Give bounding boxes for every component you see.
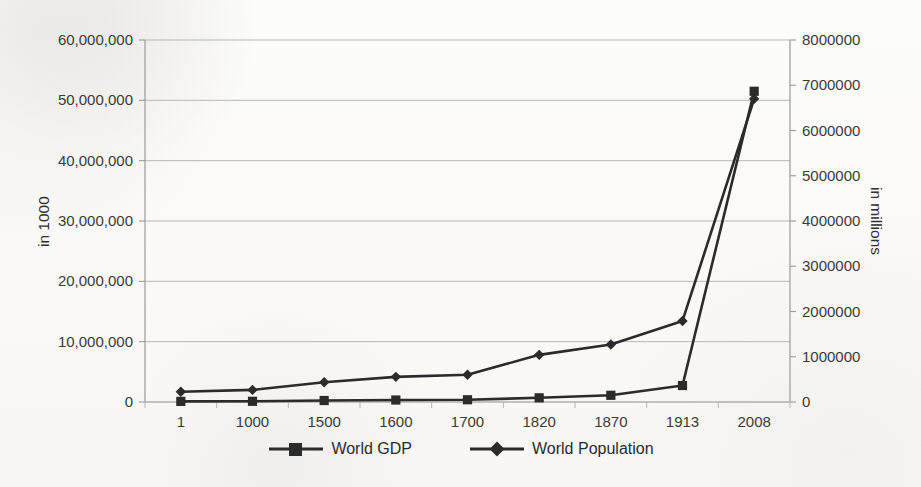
data-point-marker (534, 350, 544, 360)
left-axis-title: in 1000 (36, 196, 52, 247)
right-axis-tick-label: 7000000 (802, 77, 860, 92)
legend-marker-diamond-icon (468, 440, 526, 458)
x-axis-tick-label: 1870 (575, 414, 647, 429)
left-axis-tick-label: 40,000,000 (0, 153, 133, 168)
left-axis-ticks (139, 40, 145, 402)
legend-label-world-gdp: World GDP (331, 441, 412, 457)
right-axis-tick-label: 3000000 (802, 258, 860, 273)
data-point-marker (247, 385, 257, 395)
data-point-marker (176, 387, 186, 397)
right-axis-tick-label: 6000000 (802, 123, 860, 138)
data-point-marker (677, 316, 687, 326)
left-axis-tick-label: 10,000,000 (0, 334, 133, 349)
right-axis-title: in millions (869, 187, 885, 255)
x-axis-tick-label: 1500 (288, 414, 360, 429)
data-point-marker (319, 377, 329, 387)
right-axis-tick-label: 0 (802, 394, 810, 409)
x-axis-tick-label: 1600 (360, 414, 432, 429)
data-series-layer (176, 87, 760, 406)
series-line-world-gdp (181, 91, 754, 401)
legend-marker-square-icon (267, 440, 325, 458)
x-axis-tick-label: 1700 (432, 414, 504, 429)
right-axis-tick-label: 1000000 (802, 349, 860, 364)
chart-figure: 010,000,00020,000,00030,000,00040,000,00… (0, 0, 921, 487)
x-axis-tick-label: 2008 (718, 414, 790, 429)
left-axis-tick-label: 0 (0, 394, 133, 409)
data-point-marker (320, 396, 329, 405)
series-line-world-population (181, 99, 754, 392)
x-axis-tick-label: 1000 (217, 414, 289, 429)
x-axis-tick-label: 1 (145, 414, 217, 429)
legend-item-world-gdp[interactable]: World GDP (267, 440, 412, 458)
left-axis-tick-label: 20,000,000 (0, 273, 133, 288)
chart-legend: World GDP World Population (0, 440, 921, 458)
gridlines (145, 40, 790, 402)
right-axis-tick-label: 8000000 (802, 32, 860, 47)
data-point-marker (606, 339, 616, 349)
right-axis-tick-label: 5000000 (802, 168, 860, 183)
data-point-marker (391, 372, 401, 382)
data-point-marker (606, 391, 615, 400)
right-axis-ticks (790, 40, 796, 402)
data-point-marker (463, 395, 472, 404)
data-point-marker (462, 370, 472, 380)
legend-label-world-population: World Population (532, 441, 654, 457)
data-point-marker (248, 397, 257, 406)
data-point-marker (678, 381, 687, 390)
right-axis-tick-label: 4000000 (802, 213, 860, 228)
legend-item-world-population[interactable]: World Population (468, 440, 654, 458)
right-axis-tick-label: 2000000 (802, 304, 860, 319)
left-axis-tick-label: 60,000,000 (0, 32, 133, 47)
data-point-marker (176, 397, 185, 406)
data-point-marker (535, 393, 544, 402)
x-axis-tick-label: 1913 (647, 414, 719, 429)
left-axis-tick-label: 30,000,000 (0, 213, 133, 228)
x-axis-tick-label: 1820 (503, 414, 575, 429)
data-point-marker (391, 395, 400, 404)
left-axis-tick-label: 50,000,000 (0, 92, 133, 107)
